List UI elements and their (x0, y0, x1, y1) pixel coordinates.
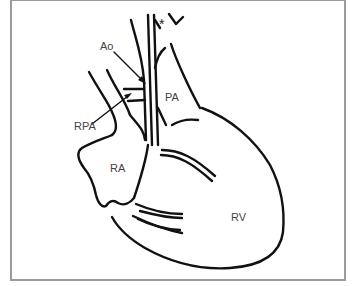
label-rv: RV (231, 212, 246, 223)
label-ra: RA (110, 163, 125, 174)
aorta-inner-wall (154, 15, 158, 145)
label-asterisk: * (159, 17, 164, 31)
v-mark (169, 14, 183, 24)
pa-bottom-line (172, 120, 198, 125)
pa-inner-line (158, 108, 166, 125)
rpa-arrow (92, 96, 128, 124)
label-rpa: RPA (74, 121, 96, 132)
label-ao: Ao (100, 41, 113, 52)
rpa-lower-line (128, 100, 145, 101)
moderator-band-4 (138, 219, 180, 230)
label-pa: PA (165, 92, 179, 103)
heart-diagram (0, 0, 355, 286)
aorta-right-wall (148, 15, 152, 145)
